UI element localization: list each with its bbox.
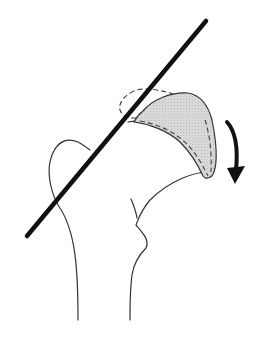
diagram-canvas — [0, 0, 263, 341]
femur-diagram — [0, 0, 263, 341]
femur-outline — [49, 121, 209, 320]
displaced-epiphysis — [134, 93, 216, 178]
slip-direction-arrow-icon — [227, 122, 245, 184]
